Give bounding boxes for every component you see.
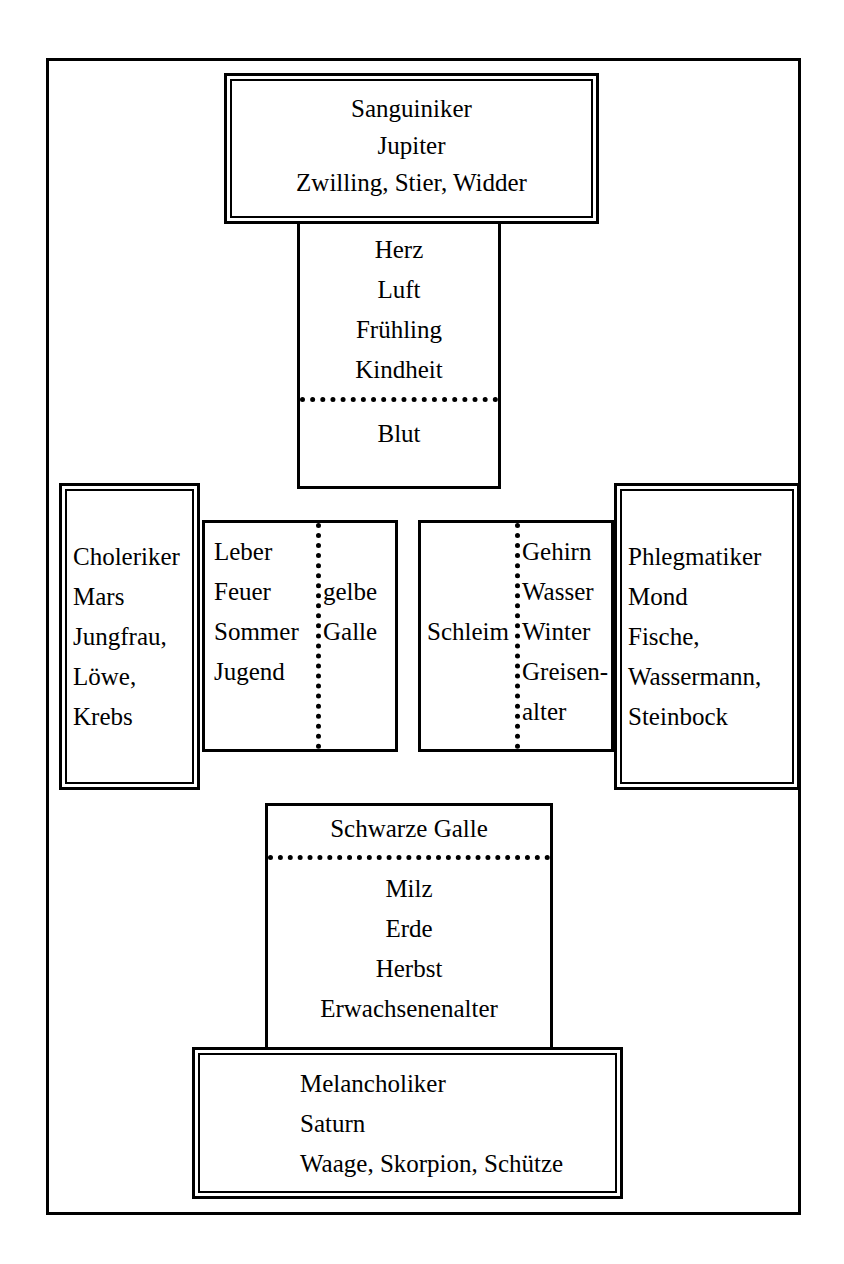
phlegmatiker-age-line2: alter <box>522 695 566 728</box>
phlegmatiker-signs-line1: Fische, <box>628 620 700 653</box>
phlegmatiker-temperament: Phlegmatiker <box>628 540 761 573</box>
choleriker-temperament: Choleriker <box>73 540 180 573</box>
sanguiniker-element: Luft <box>300 273 498 306</box>
choleriker-planet: Mars <box>73 580 124 613</box>
choleriker-organ: Leber <box>214 535 272 568</box>
phlegmatiker-element: Wasser <box>522 575 594 608</box>
divider-melancholiker-humor <box>268 855 550 860</box>
node-sanguiniker: Sanguiniker Jupiter Zwilling, Stier, Wid… <box>224 73 599 224</box>
node-choleriker: Choleriker Mars Jungfrau, Löwe, Krebs <box>59 483 200 790</box>
choleriker-element: Feuer <box>214 575 271 608</box>
phlegmatiker-planet: Mond <box>628 580 688 613</box>
melancholiker-signs: Waage, Skorpion, Schütze <box>300 1147 563 1180</box>
phlegmatiker-season: Winter <box>522 615 590 648</box>
melancholiker-temperament: Melancholiker <box>300 1067 446 1100</box>
node-phlegmatiker: Phlegmatiker Mond Fische, Wassermann, St… <box>614 483 800 790</box>
choleriker-season: Sommer <box>214 615 299 648</box>
phlegmatiker-signs-line2: Wassermann, <box>628 660 761 693</box>
choleriker-age: Jugend <box>214 655 285 688</box>
divider-sanguiniker-humor <box>300 397 498 402</box>
melancholiker-element: Erde <box>268 912 550 945</box>
phlegmatiker-organ: Gehirn <box>522 535 591 568</box>
phlegmatiker-humor: Schleim <box>427 615 509 648</box>
melancholiker-age: Erwachsenenalter <box>268 992 550 1025</box>
melancholiker-planet: Saturn <box>300 1107 365 1140</box>
choleriker-signs-line1: Jungfrau, <box>73 620 167 653</box>
choleriker-signs-line2: Löwe, <box>73 660 136 693</box>
sanguiniker-age: Kindheit <box>300 353 498 386</box>
attributes-sanguiniker: Herz Luft Frühling Kindheit Blut <box>297 224 501 489</box>
sanguiniker-humor: Blut <box>300 417 498 450</box>
attributes-melancholiker: Schwarze Galle Milz Erde Herbst Erwachse… <box>265 803 553 1050</box>
attributes-phlegmatiker: Schleim Gehirn Wasser Winter Greisen- al… <box>418 520 614 752</box>
diagram-canvas: Sanguiniker Jupiter Zwilling, Stier, Wid… <box>0 0 844 1264</box>
melancholiker-organ: Milz <box>268 872 550 905</box>
melancholiker-season: Herbst <box>268 952 550 985</box>
choleriker-humor-line1: gelbe <box>323 575 377 608</box>
sanguiniker-organ: Herz <box>300 233 498 266</box>
divider-phlegmatiker-humor <box>515 523 520 749</box>
choleriker-signs-line3: Krebs <box>73 700 133 733</box>
divider-choleriker-humor <box>316 523 321 749</box>
sanguiniker-temperament: Sanguiniker <box>232 92 591 125</box>
phlegmatiker-age-line1: Greisen- <box>522 655 608 688</box>
sanguiniker-planet: Jupiter <box>232 129 591 162</box>
choleriker-humor-line2: Galle <box>323 615 377 648</box>
phlegmatiker-signs-line3: Steinbock <box>628 700 728 733</box>
melancholiker-humor: Schwarze Galle <box>268 812 550 845</box>
node-melancholiker: Melancholiker Saturn Waage, Skorpion, Sc… <box>192 1047 623 1199</box>
sanguiniker-signs: Zwilling, Stier, Widder <box>232 166 591 199</box>
sanguiniker-season: Frühling <box>300 313 498 346</box>
attributes-choleriker: Leber Feuer Sommer Jugend gelbe Galle <box>202 520 398 752</box>
